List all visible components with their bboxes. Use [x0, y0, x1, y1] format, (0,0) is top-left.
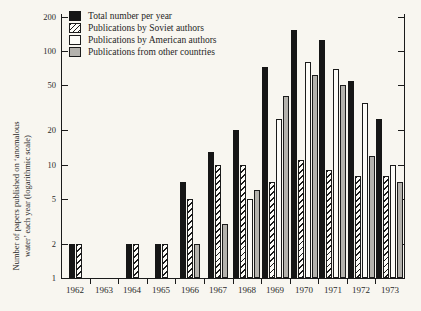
y-tick-right: [398, 165, 404, 166]
year-label: 1962: [60, 285, 90, 296]
legend-label-soviet: Publications by Soviet authors: [88, 23, 204, 34]
legend-swatch-soviet-icon: [69, 23, 81, 33]
bar-soviet-1964: [133, 244, 139, 278]
year-label: 1970: [289, 285, 319, 296]
year-label: 1963: [89, 285, 119, 296]
bar-total-1964: [126, 244, 132, 278]
bar-other-1972: [369, 156, 375, 278]
bar-soviet-1962: [76, 244, 82, 278]
y-tick: [62, 130, 68, 131]
x-tick: [318, 279, 319, 284]
bar-other-1968: [254, 190, 260, 278]
bar-other-1969: [283, 96, 289, 278]
bar-soviet-1966: [187, 199, 193, 278]
y-tick: [62, 17, 68, 18]
legend-label-other: Publications from other countries: [88, 47, 215, 58]
bar-soviet-1972: [355, 176, 361, 278]
y-tick-right: [398, 51, 404, 52]
polywater-publications-chart: Number of papers published on ‘anomalous…: [0, 0, 421, 311]
bar-total-1970: [291, 30, 297, 278]
year-label: 1965: [146, 285, 176, 296]
right-axis-line: [404, 14, 405, 279]
y-tick-label: 5: [30, 194, 56, 204]
bar-total-1969: [262, 67, 268, 278]
bar-american-1969: [276, 119, 282, 278]
bar-other-1966: [194, 244, 200, 278]
y-tick: [62, 51, 68, 52]
y-tick: [62, 244, 68, 245]
legend-swatch-american-icon: [69, 35, 81, 45]
legend-item-american: Publications by American authors: [69, 34, 217, 46]
x-tick: [147, 279, 148, 284]
bar-soviet-1973: [383, 176, 389, 278]
x-tick: [375, 279, 376, 284]
bar-other-1971: [340, 85, 346, 278]
y-tick: [62, 85, 68, 86]
y-tick-right: [398, 85, 404, 86]
bar-american-1973: [390, 165, 396, 278]
bar-soviet-1967: [215, 165, 221, 278]
y-tick-label: 200: [30, 12, 56, 22]
bar-total-1973: [376, 119, 382, 278]
y-tick-right: [398, 17, 404, 18]
legend-item-total: Total number per year: [69, 10, 217, 22]
bar-other-1973: [397, 182, 403, 278]
y-tick-right: [398, 278, 404, 279]
bar-total-1968: [233, 130, 239, 278]
year-label: 1972: [346, 285, 376, 296]
year-label: 1967: [203, 285, 233, 296]
legend-swatch-total-icon: [69, 11, 81, 21]
x-tick: [175, 279, 176, 284]
x-tick: [261, 279, 262, 284]
bar-soviet-1969: [269, 182, 275, 278]
y-tick-label: 10: [30, 160, 56, 170]
bar-other-1967: [222, 224, 228, 278]
y-tick-right: [398, 130, 404, 131]
bar-total-1966: [180, 182, 186, 278]
year-label: 1964: [117, 285, 147, 296]
y-tick-label: 20: [30, 125, 56, 135]
y-tick: [62, 278, 68, 279]
y-axis-line: [61, 14, 62, 279]
bar-total-1967: [208, 152, 214, 278]
year-label: 1969: [260, 285, 290, 296]
bar-other-1970: [312, 75, 318, 278]
bar-total-1971: [319, 40, 325, 278]
bar-soviet-1968: [240, 165, 246, 278]
x-tick: [290, 279, 291, 284]
y-tick-label: 1: [30, 273, 56, 283]
bar-american-1970: [305, 62, 311, 278]
year-label: 1966: [175, 285, 205, 296]
x-tick: [233, 279, 234, 284]
bar-american-1968: [247, 199, 253, 278]
year-label: 1968: [232, 285, 262, 296]
bar-american-1971: [333, 69, 339, 278]
legend-swatch-other-icon: [69, 47, 81, 57]
y-tick-label: 2: [30, 239, 56, 249]
year-label: 1973: [375, 285, 405, 296]
bar-soviet-1965: [162, 244, 168, 278]
bar-total-1962: [69, 244, 75, 278]
y-axis-label-line1: Number of papers published on ‘anomalous: [11, 46, 22, 311]
bar-soviet-1971: [326, 170, 332, 278]
legend-item-soviet: Publications by Soviet authors: [69, 22, 217, 34]
bar-american-1972: [362, 103, 368, 278]
legend-label-american: Publications by American authors: [88, 35, 217, 46]
x-tick: [118, 279, 119, 284]
x-tick: [347, 279, 348, 284]
bar-total-1972: [348, 81, 354, 278]
y-tick: [62, 165, 68, 166]
bar-soviet-1970: [298, 160, 304, 278]
y-tick-label: 50: [30, 80, 56, 90]
x-tick: [90, 279, 91, 284]
y-tick: [62, 199, 68, 200]
year-label: 1971: [318, 285, 348, 296]
x-tick: [204, 279, 205, 284]
legend-item-other: Publications from other countries: [69, 46, 217, 58]
legend-label-total: Total number per year: [88, 11, 172, 22]
y-tick-label: 100: [30, 46, 56, 56]
chart-legend: Total number per yearPublications by Sov…: [69, 10, 217, 58]
bar-total-1965: [155, 244, 161, 278]
